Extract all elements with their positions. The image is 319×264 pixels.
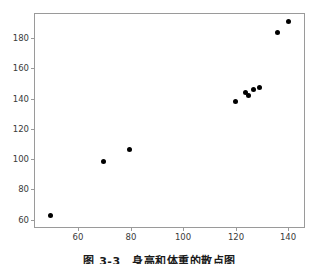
- y-tick-label: 120: [13, 124, 29, 134]
- scatter-point: [101, 159, 106, 164]
- figure: 60 80 100 120 140 160 180 60 80 100 120 …: [0, 0, 319, 264]
- scatter-plot-area: [34, 13, 305, 228]
- x-tick-mark: [236, 228, 237, 231]
- x-tick-mark: [183, 228, 184, 231]
- scatter-point: [286, 19, 291, 24]
- x-tick-label: 80: [126, 232, 137, 242]
- x-tick-mark: [78, 228, 79, 231]
- x-tick-label: 60: [73, 232, 84, 242]
- x-tick-label: 140: [280, 232, 296, 242]
- scatter-point: [275, 30, 280, 35]
- x-tick-label: 120: [228, 232, 244, 242]
- x-tick-mark: [131, 228, 132, 231]
- y-tick-label: 80: [18, 184, 29, 194]
- x-tick-label: 100: [175, 232, 191, 242]
- scatter-point: [246, 93, 251, 98]
- figure-caption: 图 3-3 身高和体重的散点图: [0, 252, 319, 264]
- y-tick-label: 160: [13, 63, 29, 73]
- y-tick-label: 140: [13, 94, 29, 104]
- y-tick-label: 100: [13, 154, 29, 164]
- y-tick-label: 180: [13, 33, 29, 43]
- scatter-point: [257, 85, 262, 90]
- scatter-point: [233, 99, 238, 104]
- scatter-point: [48, 213, 53, 218]
- x-tick-mark: [288, 228, 289, 231]
- y-tick-label: 60: [18, 215, 29, 225]
- scatter-point: [127, 147, 132, 152]
- scatter-point: [251, 87, 256, 92]
